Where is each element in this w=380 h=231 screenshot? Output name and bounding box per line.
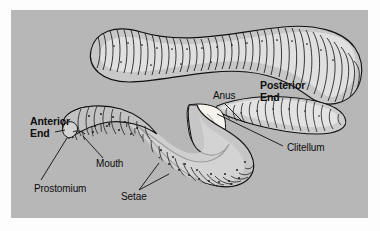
label-prostomium: Prostomium: [34, 183, 86, 194]
label-anterior-end: Anterior End: [30, 116, 70, 140]
leader-setae: [139, 163, 169, 190]
label-posterior-end: Posterior End: [260, 80, 305, 104]
leader-mouth: [83, 136, 103, 158]
label-setae: Setae: [121, 191, 147, 202]
figure-root: Anterior End Posterior End Anus Clitellu…: [0, 0, 380, 231]
leader-prostomium: [41, 138, 67, 180]
label-mouth: Mouth: [96, 158, 123, 169]
label-anus: Anus: [213, 90, 235, 101]
label-clitellum: Clitellum: [287, 142, 324, 153]
diagram-panel: Anterior End Posterior End Anus Clitellu…: [11, 10, 368, 218]
